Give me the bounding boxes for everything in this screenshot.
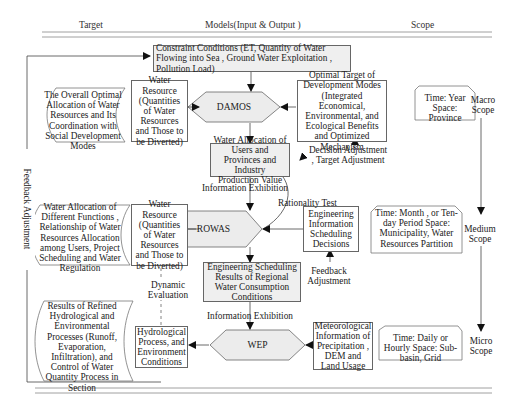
wep-label: WEP xyxy=(210,340,305,350)
scope-macro-detail: Time: Year Space: Province xyxy=(415,93,475,124)
damos-output-text: Water Resource (Quantities of Water Reso… xyxy=(134,75,185,146)
engineering-results-box: Engineering Scheduling Results of Region… xyxy=(203,262,301,302)
scope-medium-label: Medium Scope xyxy=(462,224,498,244)
damos-output-water-resource: Water Resource (Quantities of Water Reso… xyxy=(131,80,188,142)
scope-micro-detail: Time: Daily or Hourly Space: Sub-basin, … xyxy=(379,333,462,364)
water-allocation-text: Water Allocation of Users and Provinces … xyxy=(213,135,287,186)
header-scope: Scope xyxy=(411,20,434,30)
meteorological-box: Meteorological Information of Precipitat… xyxy=(313,322,373,370)
feedback-side-label: Feedback Adjustment xyxy=(22,149,32,269)
header-models: Models(Input & Output ) xyxy=(205,20,301,30)
water-allocation-box: Water Allocation of Users and Provinces … xyxy=(210,143,290,177)
wep-output-hydrological: Hydrological Process, and Environment Co… xyxy=(135,326,188,368)
damos-label: DAMOS xyxy=(188,102,280,112)
optimal-target-box: Optimal Target of Development Modes (Int… xyxy=(297,80,387,142)
rationality-test-label: Rationality Test xyxy=(278,198,337,208)
decision-adjustment-label: Decision Adjustment , Target Adjustment xyxy=(308,145,388,165)
target-macro-text: The Overall Optimal Allocation of Water … xyxy=(42,90,124,151)
scope-medium-detail: Time: Month , or Ten-day Period Space: M… xyxy=(371,208,462,249)
optimal-target-text: Optimal Target of Development Modes (Int… xyxy=(300,70,384,152)
engineering-info-text: Engineering Information Scheduling Decis… xyxy=(306,209,356,250)
feedback-adjustment-label: Feedback Adjustment xyxy=(306,266,352,286)
dynamic-evaluation-label: Dynamic Evaluation xyxy=(145,280,191,300)
constraint-conditions-box: Constraint Conditions (ET, Quantity of W… xyxy=(153,45,351,72)
target-micro-text: Results of Refined Hydrological and Envi… xyxy=(38,301,126,393)
rowas-output-text: Water Resource (Quantities of Water Reso… xyxy=(134,199,185,270)
target-medium-text: Water Allocation of Different Functions … xyxy=(34,202,126,273)
header-target: Target xyxy=(79,20,103,30)
scope-macro-label: Macro Scope xyxy=(468,95,498,115)
rowas-output-water-resource: Water Resource (Quantities of Water Reso… xyxy=(131,204,188,266)
meteorological-text: Meteorological Information of Precipitat… xyxy=(315,321,372,372)
info-exhibition-label-1: Information Exhibition xyxy=(202,183,288,193)
engineering-info-box: Engineering Information Scheduling Decis… xyxy=(303,206,359,252)
scope-micro-label: Micro Scope xyxy=(466,336,496,356)
info-exhibition-label-2: Information Exhibition xyxy=(207,311,293,321)
engineering-results-text: Engineering Scheduling Results of Region… xyxy=(206,262,298,303)
wep-output-text: Hydrological Process, and Environment Co… xyxy=(137,327,186,368)
